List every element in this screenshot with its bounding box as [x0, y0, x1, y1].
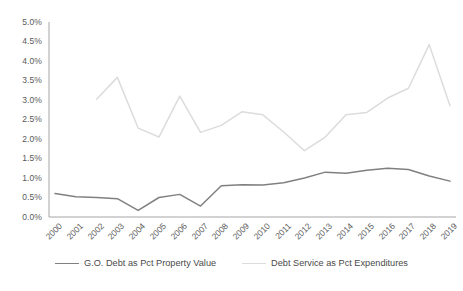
data-series-group: [55, 45, 450, 211]
legend-line-swatch: [242, 263, 266, 264]
y-axis-tick-label: 2.5%: [2, 114, 42, 124]
legend-entry-2[interactable]: Debt Service as Pct Expenditures: [242, 258, 408, 268]
y-axis-tick-label: 1.5%: [2, 153, 42, 163]
legend-entry-1[interactable]: G.O. Debt as Pct Property Value: [55, 258, 216, 268]
y-axis-tick-label: 5.0%: [2, 17, 42, 27]
y-axis-tick-label: 3.5%: [2, 75, 42, 85]
chart-axes: [49, 22, 456, 217]
y-axis-tick-label: 4.5%: [2, 36, 42, 46]
y-axis-tick-label: 2.0%: [2, 134, 42, 144]
series-line-1: [55, 168, 450, 210]
legend-label: Debt Service as Pct Expenditures: [271, 258, 408, 268]
y-axis-tick-label: 3.0%: [2, 95, 42, 105]
series-line-2: [97, 45, 450, 151]
y-axis-tick-label: 1.0%: [2, 173, 42, 183]
line-chart: 0.0%0.5%1.0%1.5%2.0%2.5%3.0%3.5%4.0%4.5%…: [0, 0, 463, 291]
chart-legend: G.O. Debt as Pct Property ValueDebt Serv…: [0, 252, 463, 274]
legend-label: G.O. Debt as Pct Property Value: [84, 258, 216, 268]
y-axis-tick-label: 0.5%: [2, 192, 42, 202]
y-axis-tick-label: 4.0%: [2, 56, 42, 66]
legend-line-swatch: [55, 263, 79, 264]
y-axis-tick-label: 0.0%: [2, 212, 42, 222]
